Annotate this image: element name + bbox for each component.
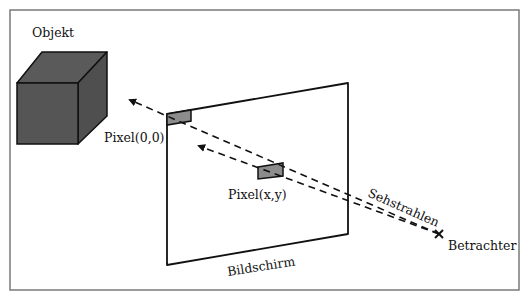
object-label: Objekt bbox=[32, 25, 74, 40]
cube-front-face bbox=[17, 83, 78, 144]
pixel-xy-label: Pixel(x,y) bbox=[228, 187, 287, 202]
viewer-label: Betrachter bbox=[448, 238, 517, 253]
ray-casting-diagram: Objekt Pixel(0,0) Pixel(x,y) Bildschirm … bbox=[0, 0, 529, 297]
pixel-origin-label: Pixel(0,0) bbox=[104, 130, 165, 145]
